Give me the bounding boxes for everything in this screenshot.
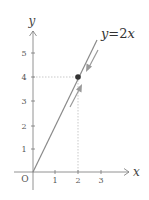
y-tick-label-5: 5 — [21, 49, 26, 58]
arrow-up-right-icon — [70, 84, 82, 107]
y-tick-label-2: 2 — [21, 122, 26, 131]
y-axis-label: y — [28, 14, 36, 28]
arrow-down-left-icon — [86, 50, 98, 72]
y-axis: 1 2 3 4 5 y — [21, 14, 36, 190]
y-tick-label-3: 3 — [21, 97, 26, 106]
line-y-equals-2x — [33, 40, 97, 172]
x-axis-label: x — [133, 165, 140, 179]
y-tick-label-1: 1 — [21, 145, 26, 154]
x-tick-label-1: 1 — [52, 176, 57, 185]
y-tick-label-4: 4 — [21, 73, 26, 82]
equation-label: y=2x — [100, 26, 136, 41]
x-tick-label-2: 2 — [75, 176, 80, 185]
point-2-4 — [75, 74, 81, 80]
coordinate-diagram: 1 2 3 x 1 2 3 4 5 y O y=2x — [0, 0, 149, 200]
equation-equals-2: =2 — [108, 26, 127, 41]
equation-var-x: x — [128, 26, 136, 41]
x-tick-label-3: 3 — [98, 176, 103, 185]
origin-label: O — [21, 174, 28, 184]
